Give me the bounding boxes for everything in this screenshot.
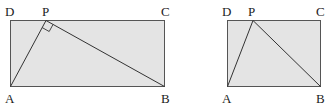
label-d-right: D — [222, 4, 231, 19]
label-c-right: C — [316, 4, 325, 19]
label-b-right: B — [316, 91, 325, 106]
figure-left: D P C A B — [5, 4, 170, 106]
label-p-right: P — [248, 4, 255, 19]
label-d-left: D — [5, 4, 14, 19]
label-b-left: B — [161, 91, 170, 106]
label-c-left: C — [161, 4, 170, 19]
rectangle-abcd-left — [11, 21, 165, 87]
label-p-left: P — [42, 4, 49, 19]
rectangle-abcd-right — [228, 21, 321, 87]
label-a-right: A — [222, 91, 232, 106]
figure-right: D P C A B — [222, 4, 325, 106]
label-a-left: A — [5, 91, 15, 106]
diagram-canvas: D P C A B D P C A B — [0, 0, 329, 109]
